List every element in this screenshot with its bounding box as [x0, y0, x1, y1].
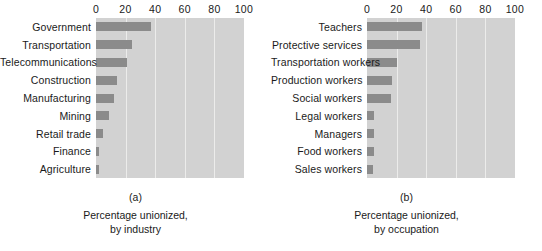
bar [367, 40, 420, 49]
gridline-80 [214, 18, 215, 178]
category-label: Construction [0, 74, 91, 86]
x-tick-80: 80 [479, 3, 491, 15]
gridline-60 [185, 18, 186, 178]
category-label: Transportation [0, 39, 91, 51]
x-tick-0: 0 [364, 3, 370, 15]
chart-panel-a: 020406080100 GovernmentTransportationTel… [0, 0, 271, 251]
bar [367, 94, 391, 103]
bar [96, 76, 117, 85]
category-label: Managers [271, 128, 362, 140]
bar [367, 165, 373, 174]
category-label: Telecommunications [0, 56, 91, 68]
category-label: Production workers [271, 74, 362, 86]
panel-caption-b-line1: Percentage unionized, [271, 208, 542, 222]
panel-tag-a: (a) [0, 190, 271, 204]
category-label: Social workers [271, 92, 362, 104]
panel-caption-b-line2: by occupation [271, 222, 542, 236]
category-label: Transportation workers [271, 56, 362, 68]
panel-caption-a-line2: by industry [0, 222, 271, 236]
x-tick-40: 40 [149, 3, 161, 15]
category-label: Manufacturing [0, 92, 91, 104]
category-label: Mining [0, 110, 91, 122]
x-tick-100: 100 [235, 3, 254, 15]
category-label: Government [0, 21, 91, 33]
bar [96, 111, 109, 120]
x-tick-20: 20 [390, 3, 402, 15]
x-tick-40: 40 [420, 3, 432, 15]
category-label: Food workers [271, 145, 362, 157]
x-tick-20: 20 [119, 3, 131, 15]
category-label: Teachers [271, 21, 362, 33]
category-label: Legal workers [271, 110, 362, 122]
category-label: Agriculture [0, 163, 91, 175]
panel-tag-b: (b) [271, 190, 542, 204]
gridline-40 [426, 18, 427, 178]
gridline-40 [155, 18, 156, 178]
plot-area-a [96, 18, 244, 178]
panel-caption-a-line1: Percentage unionized, [0, 208, 271, 222]
bar [96, 40, 132, 49]
chart-panel-b: 020406080100 TeachersProtective services… [271, 0, 542, 251]
bar [96, 58, 127, 67]
bar [367, 129, 374, 138]
bar [96, 147, 99, 156]
bar [367, 111, 374, 120]
x-tick-60: 60 [179, 3, 191, 15]
category-label: Protective services [271, 39, 362, 51]
plot-area-b [367, 18, 515, 178]
bar [367, 147, 374, 156]
bar [96, 22, 151, 31]
x-tick-80: 80 [208, 3, 220, 15]
gridline-60 [456, 18, 457, 178]
bar [367, 22, 422, 31]
bar [96, 165, 99, 174]
x-tick-60: 60 [450, 3, 462, 15]
gridline-80 [485, 18, 486, 178]
category-label: Sales workers [271, 163, 362, 175]
category-label: Finance [0, 145, 91, 157]
category-label: Retail trade [0, 128, 91, 140]
x-tick-100: 100 [506, 3, 525, 15]
bar [96, 129, 103, 138]
bar [367, 76, 392, 85]
bar [96, 94, 114, 103]
figure-percentage-unionized: 020406080100 GovernmentTransportationTel… [0, 0, 542, 251]
x-tick-0: 0 [93, 3, 99, 15]
